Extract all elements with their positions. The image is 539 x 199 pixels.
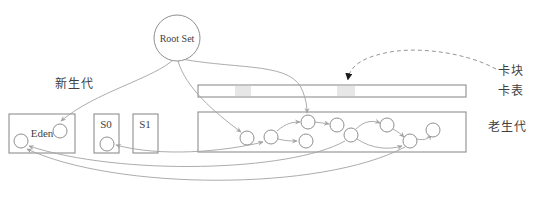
old-6-to-old-8-low: [357, 139, 402, 148]
old-obj-2: [264, 130, 278, 144]
old-obj-9: [426, 123, 440, 137]
old-6-to-old-7: [356, 121, 380, 129]
diagram-labels: Root SetEdenS0S1新生代卡块卡表老生代: [31, 33, 527, 139]
marked-card-1: [235, 86, 251, 96]
old-2-to-old-3: [277, 122, 300, 131]
old-gen-label: 老生代: [488, 120, 527, 134]
old-6-to-eden-obj: [29, 141, 345, 166]
s0-obj: [100, 137, 114, 151]
card-block-pointer: [348, 50, 496, 79]
old-obj-7: [380, 118, 394, 132]
gc-card-table-diagram: Root SetEdenS0S1新生代卡块卡表老生代: [0, 0, 539, 199]
old-obj-1: [240, 131, 254, 145]
reference-arrows: [27, 50, 496, 180]
old-7-to-old-8: [393, 129, 404, 137]
eden-obj-left: [14, 134, 28, 148]
young-gen-label: 新生代: [55, 76, 94, 91]
old-obj-6: [344, 128, 358, 142]
old-obj-3: [301, 115, 315, 129]
eden-box-label: Eden: [31, 127, 54, 139]
root-set-label: Root Set: [160, 33, 195, 44]
s0-old-obj-2-link: [116, 142, 263, 152]
diagram-canvas: Root SetEdenS0S1新生代卡块卡表老生代: [0, 0, 539, 199]
marked-cards: [235, 86, 355, 96]
old-3-to-old-5: [315, 122, 329, 124]
eden-obj-right: [53, 124, 67, 138]
old-2-to-old-4: [278, 139, 297, 141]
s0-box-label: S0: [100, 118, 112, 130]
card-block-label: 卡块: [498, 64, 524, 78]
old-obj-8: [403, 134, 417, 148]
marked-card-2: [337, 86, 355, 96]
old-obj-4: [299, 134, 313, 148]
s1-box-label: S1: [139, 118, 151, 130]
old-obj-5: [330, 118, 344, 132]
card-table-label: 卡表: [498, 84, 524, 98]
